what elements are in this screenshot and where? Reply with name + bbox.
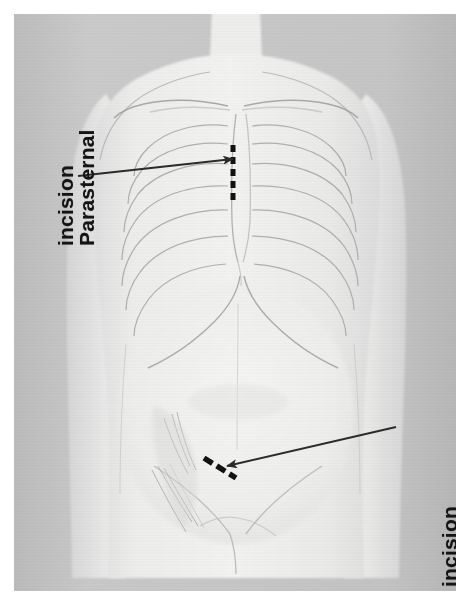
plate-inner: Parasternal incision Femoral vessel inci…	[14, 14, 456, 591]
parasternal-label-line1: Parasternal	[76, 129, 97, 246]
scanned-figure-plate: Parasternal incision Femoral vessel inci…	[14, 14, 456, 591]
abdomen-shading	[188, 384, 288, 420]
torso-silhouette	[92, 54, 380, 578]
femoral-label-line2: incision	[439, 506, 456, 587]
figure-page: Parasternal incision Femoral vessel inci…	[0, 0, 474, 609]
torso-anatomy-illustration	[14, 14, 456, 591]
parasternal-label-line2: incision	[55, 165, 76, 246]
